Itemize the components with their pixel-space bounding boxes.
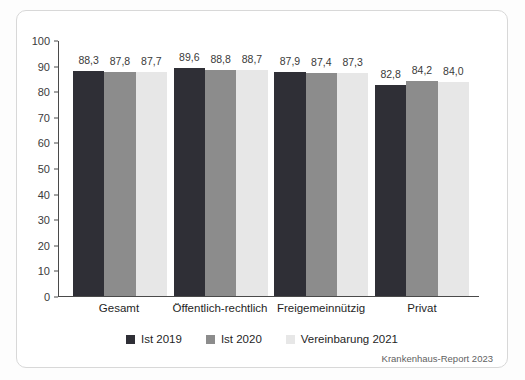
y-tick-label: 60 [38, 138, 50, 149]
y-tick-label: 40 [38, 189, 50, 200]
plot-area: 88,387,887,789,688,888,787,987,487,382,8… [58, 41, 479, 297]
bar: 84,0 [438, 82, 469, 296]
legend-item: Vereinbarung 2021 [286, 333, 398, 345]
bar-value-label: 89,6 [179, 51, 199, 63]
bar-value-label: 82,8 [380, 68, 400, 80]
bar-group: 87,987,487,3 [274, 41, 368, 296]
y-tick-label: 100 [32, 36, 50, 47]
x-category-label-text: Öffentlich-rechtlich [172, 302, 267, 314]
x-category-label: Gesamt [72, 302, 166, 314]
chart-panel: 0102030405060708090100 88,387,887,789,68… [16, 10, 508, 368]
legend-swatch [286, 335, 295, 344]
y-tick-label: 30 [38, 215, 50, 226]
x-category-label: Privat [375, 302, 469, 314]
bar: 84,2 [406, 81, 437, 296]
legend-label: Ist 2019 [141, 333, 182, 345]
legend-label: Ist 2020 [221, 333, 262, 345]
bar-value-label: 84,2 [412, 64, 432, 76]
bar-value-label: 84,0 [443, 65, 463, 77]
bar: 82,8 [375, 85, 406, 296]
bar: 87,3 [337, 73, 368, 296]
bar-value-label: 87,7 [141, 55, 161, 67]
bar-value-label: 87,9 [280, 55, 300, 67]
bar-value-label: 87,8 [110, 55, 130, 67]
x-category-label: Öffentlich-rechtlich [173, 302, 267, 314]
bar-value-label: 88,3 [78, 54, 98, 66]
y-axis: 0102030405060708090100 [17, 41, 58, 297]
y-tick-label: 80 [38, 87, 50, 98]
bar-value-label: 87,4 [311, 56, 331, 68]
bar: 87,9 [274, 72, 305, 296]
bar: 89,6 [174, 68, 205, 296]
bar: 87,8 [104, 72, 135, 296]
y-tick-label: 50 [38, 164, 50, 175]
bar-value-label: 88,8 [210, 53, 230, 65]
x-category-label-text: Gesamt [99, 302, 139, 314]
bar-group: 89,688,888,7 [174, 41, 268, 296]
x-category-label: Freigemeinnützig [274, 302, 368, 314]
page: 0102030405060708090100 88,387,887,789,68… [0, 0, 525, 380]
bar-value-label: 87,3 [342, 56, 362, 68]
source-note: Krankenhaus-Report 2023 [382, 353, 493, 364]
legend: Ist 2019Ist 2020Vereinbarung 2021 [17, 333, 507, 345]
legend-item: Ist 2019 [126, 333, 182, 345]
bar-group: 82,884,284,0 [375, 41, 469, 296]
bar-value-label: 88,7 [242, 53, 262, 65]
y-tick-label: 90 [38, 61, 50, 72]
legend-label: Vereinbarung 2021 [301, 333, 398, 345]
bar: 88,3 [73, 71, 104, 296]
bar: 88,8 [205, 70, 236, 296]
x-category-label-text: Privat [407, 302, 436, 314]
legend-item: Ist 2020 [206, 333, 262, 345]
legend-swatch [126, 335, 135, 344]
x-axis-labels: GesamtÖffentlich-rechtlichFreigemeinnütz… [58, 302, 479, 314]
bar: 87,4 [306, 73, 337, 296]
y-tick-label: 0 [44, 292, 50, 303]
y-tick-label: 10 [38, 266, 50, 277]
bar: 88,7 [236, 70, 267, 296]
bar: 87,7 [136, 72, 167, 296]
x-category-label-text: Freigemeinnützig [277, 302, 365, 314]
bar-groups: 88,387,887,789,688,888,787,987,487,382,8… [59, 41, 479, 296]
y-tick-label: 20 [38, 240, 50, 251]
y-tick-label: 70 [38, 112, 50, 123]
bar-group: 88,387,887,7 [73, 41, 167, 296]
legend-swatch [206, 335, 215, 344]
